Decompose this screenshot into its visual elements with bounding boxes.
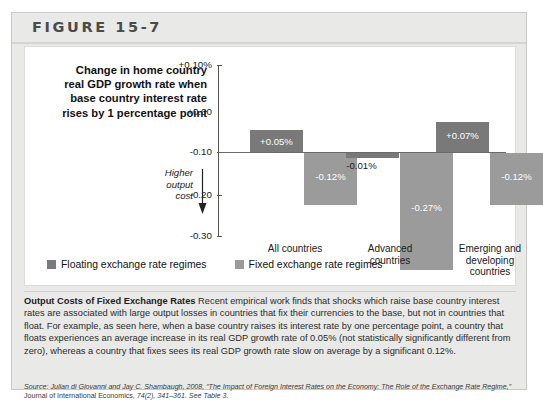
category-label-advanced-countries-line-1: Advanced: [344, 243, 436, 255]
y-tick-mark-3: [217, 236, 222, 237]
y-tick-label-0: +0.10%: [152, 59, 212, 70]
caption-heading: Output Costs of Fixed Exchange Rates: [24, 296, 196, 306]
bar-label-all-countries-floating: +0.05%: [250, 136, 303, 147]
figure-number-label: FIGURE 15-7: [32, 19, 162, 35]
category-label-emerging-countries-line-1: Emerging and: [442, 243, 538, 255]
y-tick-label-1: +0.00: [152, 106, 212, 117]
bar-label-advanced-countries-floating: -0.01%: [335, 160, 388, 171]
category-label-emerging-countries-line-3: countries: [442, 266, 538, 278]
higher-output-cost-line-1: Higher: [115, 167, 193, 179]
source-citation: Julian di Giovanni and Jay C. Shambaugh,…: [50, 383, 511, 391]
category-label-emerging-countries-line-2: developing: [442, 255, 538, 267]
caption-text: Output Costs of Fixed Exchange Rates Rec…: [24, 295, 516, 357]
figure-header-divider: [12, 42, 526, 44]
bar-label-advanced-countries-fixed: -0.27%: [400, 202, 453, 213]
chart-panel: Change in home country real GDP growth r…: [24, 46, 516, 286]
y-tick-mark-0: [217, 65, 222, 66]
y-axis-title-line-3: base country interest rate: [35, 91, 207, 105]
bar-label-emerging-countries-fixed: -0.12%: [490, 171, 543, 182]
zero-baseline: [218, 152, 506, 153]
y-axis-title-line-2: real GDP growth rate when: [35, 77, 207, 91]
legend-swatch-fixed-icon: [235, 260, 244, 269]
category-label-all-countries: All countries: [240, 243, 350, 255]
source-journal: Journal of International Economics,: [24, 392, 135, 400]
category-label-all-countries-line-1: All countries: [240, 243, 350, 255]
source-prefix: Source:: [24, 383, 48, 391]
caption-block: Output Costs of Fixed Exchange Rates Rec…: [24, 295, 516, 357]
bar-advanced-countries-floating[interactable]: [346, 153, 399, 158]
legend-label-fixed: Fixed exchange rate regimes: [249, 259, 383, 270]
y-tick-label-3: -0.20: [152, 189, 212, 200]
category-label-emerging-countries: Emerging and developing countries: [442, 243, 538, 278]
legend-swatch-floating-icon: [47, 260, 56, 269]
caption-divider: [24, 291, 516, 292]
legend-item-floating[interactable]: Floating exchange rate regimes: [47, 259, 207, 270]
figure-frame: FIGURE 15-7 Change in home country real …: [11, 12, 527, 390]
y-tick-label-2: -0.10: [152, 146, 212, 157]
plot-area: +0.10% +0.00 -0.10 -0.20 -0.30 +0.05% -0…: [218, 59, 506, 259]
bar-label-all-countries-fixed: -0.12%: [304, 171, 357, 182]
source-tail: 74(2), 341–361. See Table 3.: [137, 392, 229, 400]
legend-item-fixed[interactable]: Fixed exchange rate regimes: [235, 259, 383, 270]
figure-header: FIGURE 15-7: [12, 13, 526, 43]
chart-legend: Floating exchange rate regimes Fixed exc…: [47, 259, 383, 270]
y-tick-mark-2: [217, 195, 222, 196]
source-note: Source: Julian di Giovanni and Jay C. Sh…: [24, 383, 516, 401]
bar-label-emerging-countries-floating: +0.07%: [436, 130, 489, 141]
y-tick-label-4: -0.30: [152, 230, 212, 241]
legend-label-floating: Floating exchange rate regimes: [61, 259, 207, 270]
y-axis-line: [218, 65, 219, 236]
